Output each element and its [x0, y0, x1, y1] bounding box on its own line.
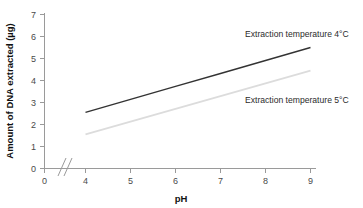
- series-label-4c: Extraction temperature 4°C: [245, 29, 349, 39]
- y-tick-label-6: 6: [31, 32, 36, 42]
- x-tick-label-4: 4: [83, 176, 88, 186]
- y-tick-label-5: 5: [31, 54, 36, 64]
- series-label-5c: Extraction temperature 5°C: [245, 95, 349, 105]
- y-tick-label-7: 7: [31, 10, 36, 20]
- y-tick-label-1: 1: [31, 142, 36, 152]
- x-tick-label-6: 6: [173, 176, 178, 186]
- x-tick-label-8: 8: [263, 176, 268, 186]
- y-tick-label-4: 4: [31, 76, 36, 86]
- x-tick-label-9: 9: [308, 176, 313, 186]
- line-chart: 7 6 5 4 3 2 1 0 0 4 5 6 7 8 9 Extraction: [0, 0, 363, 208]
- y-axis-title: Amount of DNA extracted (µg): [4, 23, 15, 158]
- chart-page: 7 6 5 4 3 2 1 0 0 4 5 6 7 8 9 Extraction: [0, 0, 363, 208]
- x-axis-title: pH: [175, 193, 188, 204]
- x-tick-label-5: 5: [128, 176, 133, 186]
- y-tick-label-0: 0: [31, 164, 36, 174]
- y-tick-label-3: 3: [31, 98, 36, 108]
- x-axis-break-icon: [58, 158, 72, 176]
- x-tick-label-0: 0: [42, 176, 47, 186]
- y-tick-label-2: 2: [31, 120, 36, 130]
- x-tick-label-7: 7: [218, 176, 223, 186]
